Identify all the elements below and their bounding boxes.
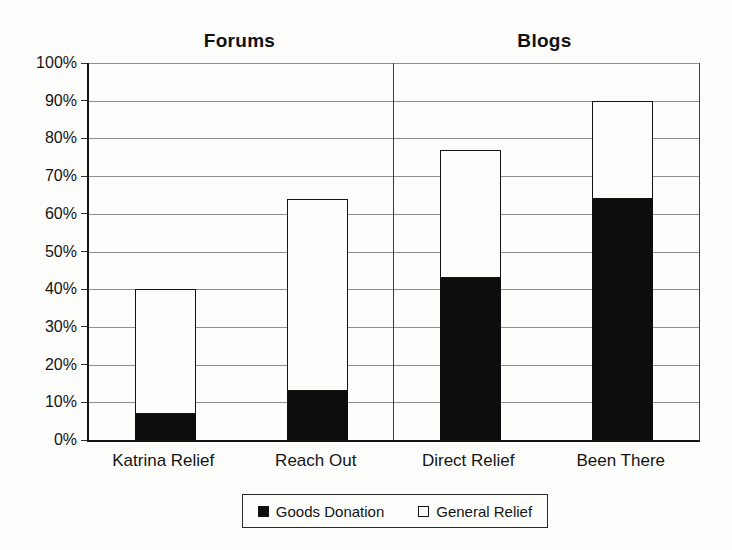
y-axis-label: 10% — [27, 393, 77, 411]
bar-segment-goods-donation — [287, 391, 348, 440]
x-axis-label: Reach Out — [240, 450, 393, 472]
y-axis-tick — [81, 402, 87, 403]
bar-segment-general-relief — [440, 150, 501, 278]
legend-label: Goods Donation — [276, 503, 384, 520]
y-axis-label: 40% — [27, 280, 77, 298]
chart-figure: Forums Blogs 0%10%20%30%40%50%60%70%80%9… — [0, 0, 732, 550]
plot-area — [87, 63, 700, 442]
y-axis-tick — [81, 364, 87, 365]
y-axis-tick — [81, 63, 87, 64]
bar-segment-goods-donation — [135, 414, 196, 440]
x-axis-label: Been There — [545, 450, 698, 472]
legend-item: General Relief — [418, 503, 532, 520]
bar-segment-goods-donation — [440, 278, 501, 440]
y-axis-label: 70% — [27, 167, 77, 185]
y-axis-tick — [81, 176, 87, 177]
bar-segment-goods-donation — [592, 199, 653, 440]
y-axis-tick — [81, 138, 87, 139]
section-divider-line — [393, 63, 394, 440]
open-square-icon — [418, 506, 429, 517]
x-axis-label: Katrina Relief — [87, 450, 240, 472]
y-axis-label: 100% — [27, 54, 77, 72]
filled-square-icon — [258, 506, 269, 517]
y-axis-label: 50% — [27, 243, 77, 261]
y-axis-tick — [81, 213, 87, 214]
section-title-forums: Forums — [87, 28, 392, 54]
y-axis-label: 80% — [27, 129, 77, 147]
bar-segment-general-relief — [287, 199, 348, 391]
y-axis-label: 60% — [27, 205, 77, 223]
y-axis-tick — [81, 251, 87, 252]
gridline — [89, 63, 699, 64]
y-axis-label: 30% — [27, 318, 77, 336]
y-axis-label: 20% — [27, 356, 77, 374]
y-axis-tick — [81, 289, 87, 290]
y-axis-tick — [81, 326, 87, 327]
y-axis-label: 0% — [27, 431, 77, 449]
section-title-blogs: Blogs — [392, 28, 697, 54]
bar-segment-general-relief — [592, 101, 653, 199]
x-axis-label: Direct Relief — [392, 450, 545, 472]
y-axis-label: 90% — [27, 92, 77, 110]
legend-item: Goods Donation — [258, 503, 384, 520]
legend-label: General Relief — [436, 503, 532, 520]
y-axis-tick — [81, 100, 87, 101]
y-axis-tick — [81, 440, 87, 441]
legend: Goods DonationGeneral Relief — [242, 494, 548, 528]
bar-segment-general-relief — [135, 289, 196, 413]
